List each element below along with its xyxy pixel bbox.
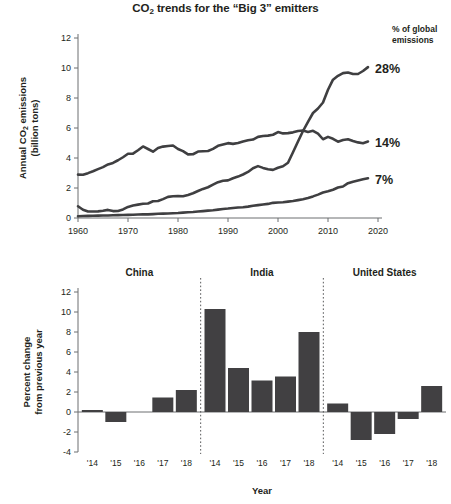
y-tick-label: 12	[61, 287, 71, 297]
x-tick-label: 2010	[318, 226, 338, 236]
x-tick-label-china-16: '16	[134, 458, 145, 468]
panel-header-china: China	[125, 267, 153, 278]
y-tick-label: -2	[63, 427, 71, 437]
x-axis-label: Year	[252, 485, 272, 496]
x-tick-label: 1960	[68, 226, 88, 236]
x-tick-label-china-18: '18	[181, 458, 192, 468]
y-axis-label-line2: from previous year	[33, 329, 44, 415]
annotation-china-share: 28%	[375, 62, 400, 76]
bar-united-states-17	[398, 412, 419, 419]
legend-header-line1: % of global	[392, 24, 437, 34]
x-tick-label: 1990	[218, 226, 238, 236]
y-tick-label: 0	[66, 213, 71, 223]
bar-india-15	[228, 368, 249, 412]
x-tick-label-china-14: '14	[87, 458, 98, 468]
bar-india-14	[205, 309, 226, 412]
x-tick-label: 1970	[118, 226, 138, 236]
figure-title: CO2 trends for the “Big 3” emitters	[0, 2, 451, 14]
y-tick-label: 0	[66, 407, 71, 417]
y-tick-label: 4	[66, 153, 71, 163]
y-tick-label: 10	[61, 307, 71, 317]
bar-united-states-14	[327, 404, 348, 413]
x-tick-label: 2000	[268, 226, 288, 236]
legend-header-line2: emissions	[392, 35, 434, 45]
annotation-india-share: 7%	[375, 173, 393, 187]
panel-header-india: India	[250, 267, 274, 278]
y-axis-label-line2: (billion tons)	[29, 100, 40, 157]
figure-co2-trends: CO2 trends for the “Big 3” emitters 0246…	[0, 0, 451, 504]
bar-india-16	[252, 381, 273, 413]
bar-india-17	[275, 377, 296, 413]
line-series-united-states	[78, 131, 368, 175]
y-tick-label: 12	[61, 33, 71, 43]
x-tick-label: 2020	[368, 226, 388, 236]
bar-united-states-15	[351, 412, 372, 440]
title-subscript: 2	[149, 7, 153, 16]
bar-china-14	[82, 410, 103, 412]
annotation-united-states-share: 14%	[375, 136, 400, 150]
bar-united-states-18	[421, 386, 442, 412]
x-tick-label-india-16: '16	[256, 458, 267, 468]
y-tick-label: -4	[63, 447, 71, 457]
x-tick-label-india-14: '14	[209, 458, 220, 468]
bar-china-15	[105, 412, 126, 422]
bar-chart-percent-change: -4-2024681012Percent changefrom previous…	[0, 262, 451, 504]
bar-india-18	[299, 332, 320, 412]
line-chart-annual-emissions: 0246810121960197019801990200020102020Ann…	[0, 18, 451, 258]
y-tick-label: 2	[66, 387, 71, 397]
x-tick-label-india-18: '18	[303, 458, 314, 468]
x-tick-label-india-15: '15	[233, 458, 244, 468]
y-tick-label: 8	[66, 327, 71, 337]
y-tick-label: 4	[66, 367, 71, 377]
x-tick-label-united-states-18: '18	[426, 458, 437, 468]
y-axis-label-line1: Annual CO2 emissions	[17, 77, 29, 179]
x-tick-label: 1980	[168, 226, 188, 236]
y-axis-label-line1: Percent change	[21, 337, 32, 408]
y-tick-label: 10	[61, 63, 71, 73]
y-tick-label: 8	[66, 93, 71, 103]
x-tick-label-united-states-15: '15	[356, 458, 367, 468]
y-tick-label: 2	[66, 183, 71, 193]
y-tick-label: 6	[66, 123, 71, 133]
x-tick-label-india-17: '17	[280, 458, 291, 468]
title-post: trends for the “Big 3” emitters	[154, 2, 319, 14]
bar-united-states-16	[374, 412, 395, 434]
x-tick-label-china-17: '17	[157, 458, 168, 468]
panel-header-united-states: United States	[353, 267, 417, 278]
x-tick-label-united-states-17: '17	[403, 458, 414, 468]
x-tick-label-united-states-14: '14	[332, 458, 343, 468]
y-axis-label: Annual CO2 emissions(billion tons)	[17, 77, 40, 179]
x-tick-label-united-states-16: '16	[379, 458, 390, 468]
title-pre: CO	[132, 2, 149, 14]
y-tick-label: 6	[66, 347, 71, 357]
bar-china-18	[176, 390, 197, 412]
x-tick-label-china-15: '15	[110, 458, 121, 468]
y-axis-label: Percent changefrom previous year	[21, 329, 44, 415]
bar-china-17	[152, 398, 173, 413]
